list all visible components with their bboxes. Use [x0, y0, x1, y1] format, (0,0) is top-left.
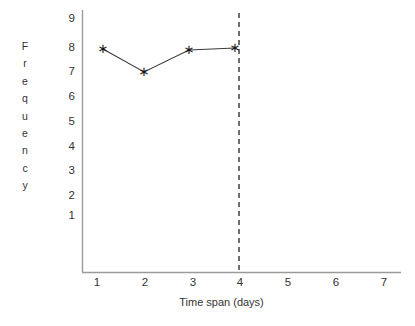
x-tick-label-6: 6	[327, 276, 345, 288]
x-tick-label-7: 7	[375, 276, 393, 288]
line-chart: F r e q u e n c y 9 8 7 6 5 4 3 2 1 ∗ ∗ …	[0, 0, 415, 326]
plot-canvas	[0, 0, 415, 326]
x-tick-label-3: 3	[184, 276, 202, 288]
data-point-marker-3: ∗	[183, 43, 196, 56]
x-tick-label-2: 2	[136, 276, 154, 288]
x-axis-title: Time span (days)	[179, 296, 264, 308]
series-line	[103, 48, 235, 72]
data-point-marker-2: ∗	[138, 65, 151, 78]
x-tick-label-1: 1	[88, 276, 106, 288]
x-axis-title-container: Time span (days)	[0, 296, 415, 308]
data-point-marker-4: ∗	[229, 41, 242, 54]
x-tick-label-5: 5	[279, 276, 297, 288]
x-tick-label-4: 4	[231, 276, 249, 288]
data-point-marker-1: ∗	[97, 42, 110, 55]
